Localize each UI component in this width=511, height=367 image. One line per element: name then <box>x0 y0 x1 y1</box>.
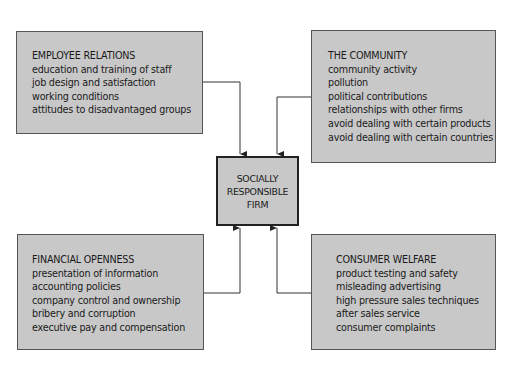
employee-relations-box: EMPLOYEE RELATIONS education and trainin… <box>16 31 203 134</box>
box-title: THE COMMUNITY <box>328 49 493 63</box>
list-item: company control and ownership <box>32 294 185 308</box>
arrow-consumer-to-firm <box>277 228 311 293</box>
list-item: avoid dealing with certain countries <box>328 131 493 145</box>
list-item: attitudes to disadvantaged groups <box>32 103 191 117</box>
box-title: EMPLOYEE RELATIONS <box>32 49 191 63</box>
center-line: RESPONSIBLE <box>227 185 288 198</box>
list-item: misleading advertising <box>336 280 479 294</box>
list-item: education and training of staff <box>32 63 191 77</box>
list-item: relationships with other firms <box>328 103 493 117</box>
list-item: executive pay and compensation <box>32 321 185 335</box>
arrow-employee-to-firm <box>203 82 240 154</box>
list-item: accounting policies <box>32 280 185 294</box>
list-item: consumer complaints <box>336 321 479 335</box>
socially-responsible-firm-box: SOCIALLY RESPONSIBLE FIRM <box>216 156 299 226</box>
list-item: job design and satisfaction <box>32 76 191 90</box>
list-item: working conditions <box>32 90 191 104</box>
center-line: FIRM <box>247 198 269 211</box>
list-item: bribery and corruption <box>32 307 185 321</box>
community-box: THE COMMUNITY community activity polluti… <box>311 30 496 163</box>
list-item: high pressure sales techniques <box>336 294 479 308</box>
list-item: political contributions <box>328 90 493 104</box>
arrow-community-to-firm <box>277 97 311 154</box>
consumer-welfare-box: CONSUMER WELFARE product testing and saf… <box>311 234 496 350</box>
arrow-financial-to-firm <box>204 228 240 293</box>
center-line: SOCIALLY <box>237 172 279 185</box>
list-item: presentation of information <box>32 267 185 281</box>
box-title: FINANCIAL OPENNESS <box>32 253 185 267</box>
list-item: after sales service <box>336 307 479 321</box>
list-item: pollution <box>328 76 493 90</box>
financial-openness-box: FINANCIAL OPENNESS presentation of infor… <box>17 234 204 350</box>
box-title: CONSUMER WELFARE <box>336 253 479 267</box>
list-item: community activity <box>328 63 493 77</box>
list-item: avoid dealing with certain products <box>328 117 493 131</box>
list-item: product testing and safety <box>336 267 479 281</box>
